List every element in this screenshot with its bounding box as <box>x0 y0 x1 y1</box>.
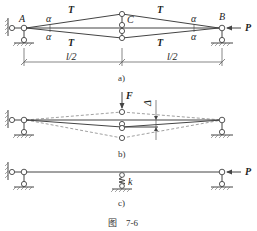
tension-label-lower-left: T <box>68 37 75 48</box>
hinge-C-mid2-icon <box>119 28 124 33</box>
angle-label-lower-left: α <box>46 31 52 42</box>
force-P-label: P <box>245 166 252 177</box>
wall-hinge-icon <box>9 117 14 122</box>
figure-7-6: A C T T T T α α α α <box>0 0 257 231</box>
hinge-C-top-icon <box>119 11 124 16</box>
tension-label-upper-left: T <box>68 4 75 15</box>
cable-lower-right <box>122 28 219 38</box>
panel-a: A C T T T T α α α α <box>5 4 252 83</box>
point-B-label: B <box>219 11 225 22</box>
arrowhead-icon <box>226 170 232 175</box>
point-C-label: C <box>127 14 134 25</box>
hinge-B-icon <box>219 25 225 31</box>
roller-B-icon <box>219 37 224 42</box>
dimension-left-label: l/2 <box>66 51 77 62</box>
panel-b: F Δ b) <box>5 90 233 159</box>
cable-upper-left <box>26 14 122 28</box>
dimension-right-label: l/2 <box>167 51 178 62</box>
hinge-A-icon <box>21 25 27 31</box>
hinge-C-mid1-icon <box>119 22 124 27</box>
panel-b-caption: b) <box>118 149 126 159</box>
support-hinge-icon <box>21 129 26 134</box>
force-P-label: P <box>245 22 252 33</box>
angle-label-upper-right: α <box>191 13 197 24</box>
arrowhead-icon <box>226 26 232 31</box>
hinge-C-bottom-icon <box>119 35 124 40</box>
spring-k-label: k <box>128 176 133 187</box>
support-hinge-icon <box>21 37 26 42</box>
tension-label-lower-right: T <box>157 37 164 48</box>
delta-label: Δ <box>142 100 153 107</box>
arrowhead-icon <box>120 103 125 109</box>
panel-c-caption: c) <box>118 198 125 208</box>
figure-caption: 图 7-6 <box>108 218 138 228</box>
angle-label-lower-right: α <box>191 31 197 42</box>
tension-label-upper-right: T <box>157 4 164 15</box>
panel-c: k P c) <box>5 162 252 208</box>
panel-a-caption: a) <box>118 73 125 83</box>
wall-hinge-icon <box>9 25 14 30</box>
point-A-label: A <box>18 13 26 24</box>
angle-label-upper-left: α <box>46 13 52 24</box>
force-F-label: F <box>125 90 133 101</box>
cable-upper-right <box>122 14 219 28</box>
spring-top-hinge-icon <box>120 173 125 178</box>
